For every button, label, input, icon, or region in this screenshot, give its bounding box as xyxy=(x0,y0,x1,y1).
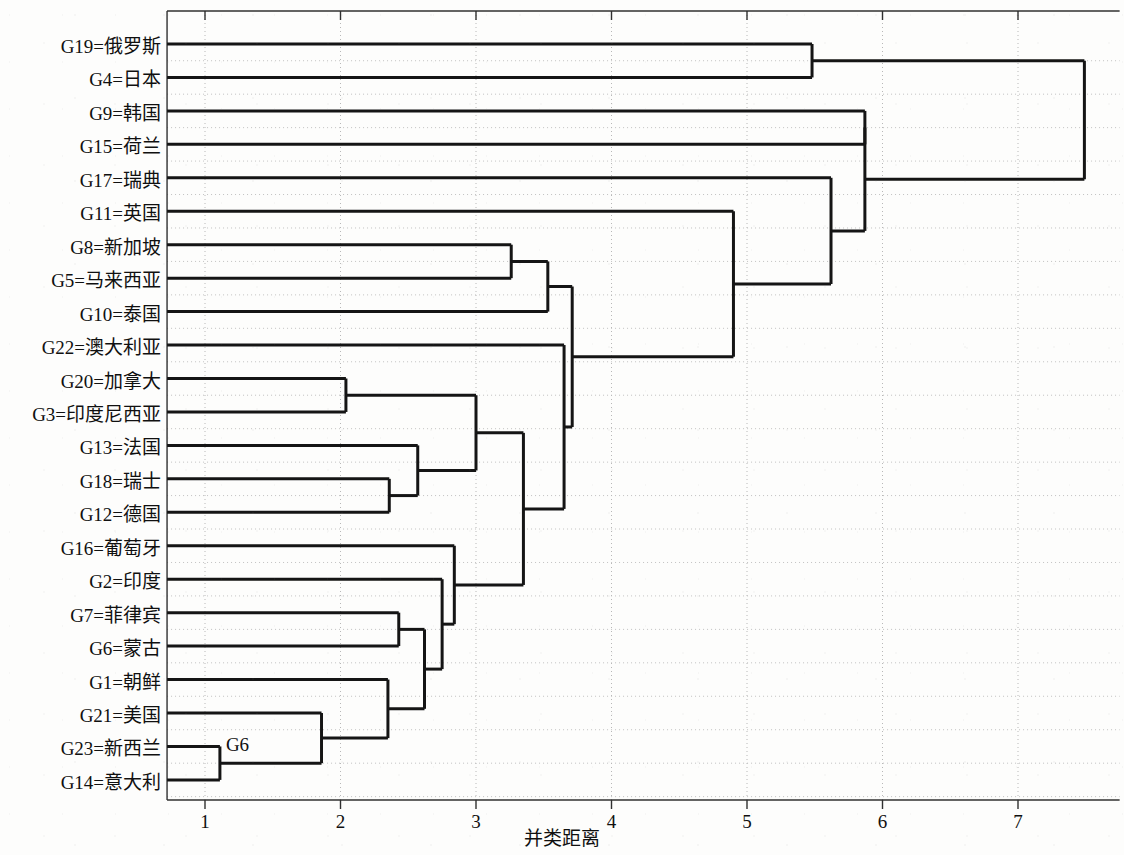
cluster-annotation-g6: G6 xyxy=(226,734,249,756)
dendrogram-link xyxy=(548,287,572,427)
x-tick-label-4: 4 xyxy=(607,811,617,833)
leaf-label-g20: G20=加拿大 xyxy=(61,365,161,392)
dendrogram-link xyxy=(388,629,425,708)
leaf-label-g9: G9=韩国 xyxy=(89,97,161,124)
leaf-label-g19: G19=俄罗斯 xyxy=(61,31,161,58)
leaf-label-g18: G18=瑞士 xyxy=(80,465,161,492)
leaf-label-g14: G14=意大利 xyxy=(61,766,161,793)
leaf-label-g2: G2=印度 xyxy=(89,566,161,593)
dendrogram-links xyxy=(167,44,1084,780)
dendrogram-link xyxy=(167,261,548,311)
leaf-label-g5: G5=马来西亚 xyxy=(51,265,161,292)
leaf-label-g7: G7=菲律宾 xyxy=(70,599,161,626)
x-axis-title: 并类距离 xyxy=(524,823,600,850)
plot-frame xyxy=(167,11,1120,809)
grid-layer xyxy=(167,11,1120,800)
dendrogram-link xyxy=(167,211,733,356)
leaf-label-g10: G10=泰国 xyxy=(80,298,161,325)
leaf-label-g22: G22=澳大利亚 xyxy=(42,332,161,359)
dendrogram-link xyxy=(167,178,831,284)
dendrogram-plot xyxy=(0,0,1124,855)
leaf-label-g13: G13=法国 xyxy=(80,432,161,459)
dendrogram-figure: G19=俄罗斯G4=日本G9=韩国G15=荷兰G17=瑞典G11=英国G8=新加… xyxy=(0,0,1124,855)
dendrogram-link xyxy=(167,579,442,669)
dendrogram-link xyxy=(167,445,418,495)
leaf-label-g12: G12=德国 xyxy=(80,499,161,526)
leaf-label-g21: G21=美国 xyxy=(80,700,161,727)
leaf-label-g6: G6=蒙古 xyxy=(89,633,161,660)
dendrogram-link xyxy=(167,345,564,509)
x-tick-label-6: 6 xyxy=(878,811,888,833)
dendrogram-link xyxy=(454,433,523,585)
leaf-label-g17: G17=瑞典 xyxy=(80,164,161,191)
leaf-label-g23: G23=新西兰 xyxy=(61,733,161,760)
leaf-label-g8: G8=新加坡 xyxy=(70,231,161,258)
x-tick-label-3: 3 xyxy=(471,811,481,833)
leaf-label-g4: G4=日本 xyxy=(89,64,161,91)
leaf-label-g11: G11=英国 xyxy=(80,198,161,225)
leaf-label-g3: G3=印度尼西亚 xyxy=(32,398,161,425)
leaf-label-g1: G1=朝鲜 xyxy=(89,666,161,693)
x-tick-label-2: 2 xyxy=(336,811,346,833)
x-tick-label-1: 1 xyxy=(200,811,210,833)
dendrogram-link xyxy=(346,395,476,470)
dendrogram-link xyxy=(167,680,388,739)
x-tick-label-7: 7 xyxy=(1013,811,1023,833)
leaf-label-g16: G16=葡萄牙 xyxy=(61,532,161,559)
leaf-label-g15: G15=荷兰 xyxy=(80,131,161,158)
x-tick-label-5: 5 xyxy=(742,811,752,833)
